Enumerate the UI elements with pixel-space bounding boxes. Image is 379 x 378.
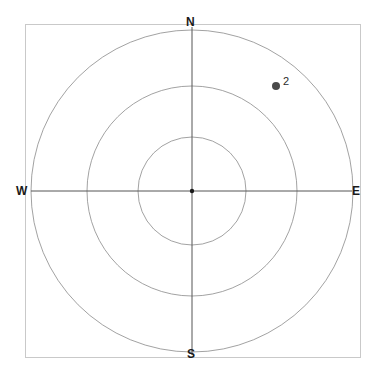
compass-label-south: S bbox=[187, 348, 195, 360]
polar-plot-canvas bbox=[0, 0, 379, 378]
compass-label-north: N bbox=[186, 16, 195, 28]
compass-label-west: W bbox=[16, 185, 27, 197]
origin-marker bbox=[190, 189, 194, 193]
data-point-label: 2 bbox=[283, 76, 289, 87]
data-point[interactable] bbox=[272, 82, 280, 90]
compass-plot-figure: N S W E 2 bbox=[0, 0, 379, 378]
compass-label-east: E bbox=[352, 185, 360, 197]
